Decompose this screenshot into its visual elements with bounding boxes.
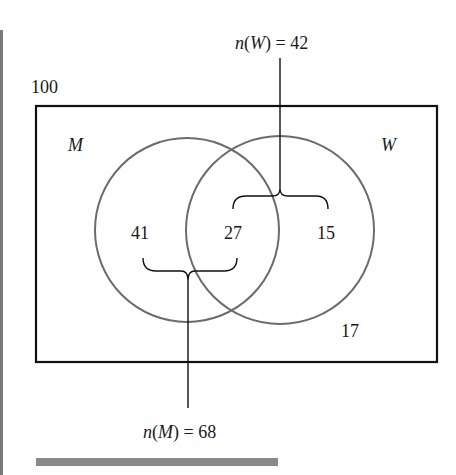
set-m-label: M [68, 136, 83, 154]
m-total-set: M [158, 422, 173, 442]
universe-total-label: 100 [31, 78, 58, 96]
bottom-rule-bar [36, 458, 278, 466]
m-total-annotation: n(M) = 68 [143, 423, 216, 441]
m-brace [143, 258, 237, 280]
w-total-annotation: n(W) = 42 [235, 34, 308, 52]
region-m-only: 41 [131, 224, 149, 242]
w-brace [233, 189, 328, 209]
w-total-set: W [250, 33, 265, 53]
region-intersection: 27 [224, 224, 242, 242]
w-total-value: = 42 [276, 33, 309, 53]
region-w-only: 15 [317, 224, 335, 242]
m-total-value: = 68 [184, 422, 217, 442]
w-total-prefix: n [235, 33, 244, 53]
m-total-prefix: n [143, 422, 152, 442]
set-w-label: W [381, 136, 396, 154]
region-neither: 17 [341, 322, 359, 340]
